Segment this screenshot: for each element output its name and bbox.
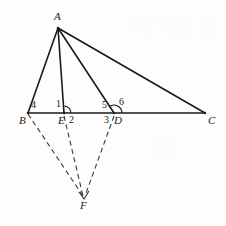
vertex-label-E: E bbox=[58, 115, 65, 126]
angle-label-6: 6 bbox=[119, 97, 124, 107]
point-B-dot bbox=[27, 112, 29, 114]
vertex-label-D: D bbox=[114, 115, 122, 126]
segment-AC bbox=[58, 28, 205, 113]
angle-arc-at-E bbox=[65, 106, 71, 113]
angle-label-1: 1 bbox=[56, 99, 61, 109]
segment-DF bbox=[85, 116, 114, 196]
angle-label-4: 4 bbox=[31, 100, 36, 110]
segment-EF bbox=[64, 116, 83, 196]
segment-BF bbox=[28, 114, 83, 196]
vertex-label-B: B bbox=[19, 115, 26, 126]
angle-label-2: 2 bbox=[69, 115, 74, 125]
geometry-figure: 教师 资源 网 A B E D C F 1 2 3 4 5 6 bbox=[0, 0, 226, 226]
vertex-label-C: C bbox=[208, 115, 215, 126]
figure-canvas bbox=[0, 0, 226, 226]
angle-label-5: 5 bbox=[102, 100, 107, 110]
angle-label-3: 3 bbox=[104, 115, 109, 125]
point-C-dot bbox=[204, 112, 206, 114]
vertex-label-F: F bbox=[80, 200, 87, 211]
point-A-dot bbox=[57, 27, 60, 30]
vertex-label-A: A bbox=[54, 11, 61, 22]
